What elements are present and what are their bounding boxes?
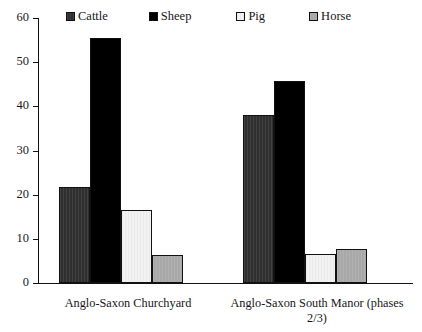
- bar-cattle-group-1: [243, 115, 274, 283]
- bar-pig-group-0: [121, 210, 152, 283]
- y-tick-label: 0: [5, 276, 29, 288]
- bar-series-container: [38, 18, 413, 283]
- bar-sheep-group-1: [274, 81, 305, 283]
- bar-chart-figure: Cattle Sheep Pig Horse 0102030405060 Ang…: [0, 0, 422, 332]
- bar-sheep-group-0: [90, 38, 121, 283]
- y-tick-mark: [33, 283, 38, 284]
- y-tick-label: 60: [5, 11, 29, 23]
- y-tick-label: 10: [5, 232, 29, 244]
- bar-pig-group-1: [305, 254, 336, 283]
- y-tick-label: 40: [5, 99, 29, 111]
- plot-area: 0102030405060 Anglo-Saxon Churchyard Ang…: [0, 0, 422, 332]
- bar-horse-group-0: [152, 255, 183, 283]
- x-axis-group-label-0: Anglo-Saxon Churchyard: [38, 296, 218, 311]
- y-tick-label: 20: [5, 188, 29, 200]
- y-tick-label: 50: [5, 55, 29, 67]
- bar-horse-group-1: [336, 249, 367, 283]
- y-tick-label: 30: [5, 144, 29, 156]
- x-axis-line: [38, 283, 413, 284]
- x-axis-group-label-1: Anglo-Saxon South Manor (phases 2/3): [222, 296, 412, 326]
- bar-cattle-group-0: [59, 187, 90, 283]
